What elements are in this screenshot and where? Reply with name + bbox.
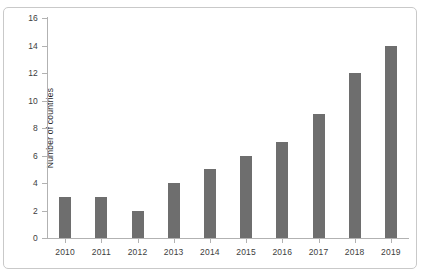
- bar-chart-figure: Number of countries 0246810121416 201020…: [0, 0, 423, 276]
- y-axis-tick-label: 10: [28, 96, 38, 106]
- x-axis-tick-mark: [319, 239, 320, 243]
- bar: [240, 156, 252, 239]
- x-axis-tick-mark: [210, 239, 211, 243]
- x-axis-tick-label: 2019: [381, 247, 401, 257]
- x-axis-tick-label: 2017: [309, 247, 329, 257]
- bar: [385, 46, 397, 239]
- y-axis-tick-label: 6: [33, 151, 38, 161]
- x-axis-tick-label: 2014: [200, 247, 220, 257]
- bar: [276, 142, 288, 238]
- bar: [59, 197, 71, 238]
- y-axis-ticks: 0246810121416: [0, 0, 47, 276]
- y-axis-tick-label: 14: [28, 41, 38, 51]
- bar: [95, 197, 107, 238]
- x-axis-tick-label: 2011: [92, 247, 111, 257]
- x-axis-tick-label: 2012: [128, 247, 148, 257]
- y-axis-tick-label: 8: [33, 123, 38, 133]
- x-axis-tick-mark: [65, 239, 66, 243]
- y-axis-tick-label: 0: [33, 233, 38, 243]
- x-axis-tick-mark: [282, 239, 283, 243]
- x-axis-tick-label: 2013: [164, 247, 184, 257]
- bar: [132, 211, 144, 239]
- y-axis-tick-label: 16: [28, 13, 38, 23]
- bar: [168, 183, 180, 238]
- x-axis-tick-mark: [391, 239, 392, 243]
- bar: [204, 169, 216, 238]
- plot-area: [47, 18, 409, 238]
- x-axis-tick-label: 2018: [345, 247, 365, 257]
- y-axis-tick-label: 4: [33, 178, 38, 188]
- x-axis-tick-label: 2015: [236, 247, 256, 257]
- y-axis-tick-label: 12: [28, 68, 38, 78]
- x-axis-tick-mark: [246, 239, 247, 243]
- x-axis-tick-mark: [174, 239, 175, 243]
- x-axis-tick-label: 2010: [55, 247, 75, 257]
- x-axis-tick-mark: [138, 239, 139, 243]
- y-axis-tick-label: 2: [33, 206, 38, 216]
- x-axis-tick-label: 2016: [272, 247, 292, 257]
- x-axis-tick-mark: [101, 239, 102, 243]
- x-axis-tick-mark: [355, 239, 356, 243]
- bar: [349, 73, 361, 238]
- bar: [313, 114, 325, 238]
